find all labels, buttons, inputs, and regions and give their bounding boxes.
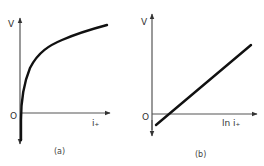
caption-b: (b) xyxy=(195,150,206,159)
origin-label-a: O xyxy=(10,111,17,121)
x-axis-label-a: i₊ xyxy=(92,118,100,128)
figure: V O i₊ (a) V O ln i₊ (b) xyxy=(0,0,264,166)
origin-label-b: O xyxy=(142,112,149,122)
x-axis-label-b: ln i₊ xyxy=(222,118,241,128)
caption-a: (a) xyxy=(54,147,65,156)
panel-b: V O ln i₊ (b) xyxy=(141,14,257,159)
panel-a: V O i₊ (a) xyxy=(8,18,110,156)
y-axis-label-b: V xyxy=(141,17,148,27)
y-axis-label-a: V xyxy=(8,19,15,29)
linear-line-b xyxy=(156,45,251,125)
